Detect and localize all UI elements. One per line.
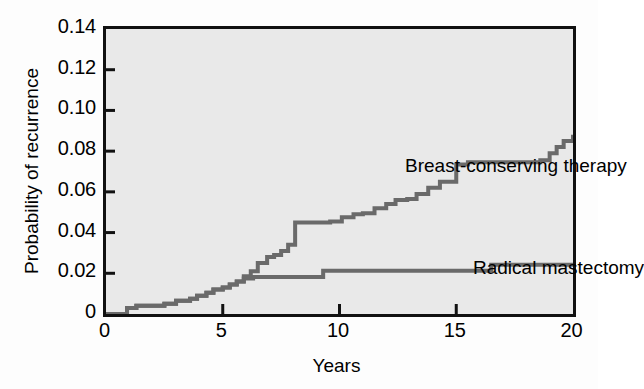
x-tick-label: 5	[216, 320, 227, 340]
x-tick-label: 20	[561, 320, 583, 340]
x-axis-tick-labels: 05101520	[0, 320, 598, 350]
x-tick-label: 0	[99, 320, 110, 340]
x-tick-label: 15	[444, 320, 466, 340]
x-axis-title: Years	[103, 355, 570, 377]
x-tick-label: 10	[327, 320, 349, 340]
series-label-radical-mastectomy: Radical mastectomy	[473, 258, 644, 277]
y-axis-title: Probability of recurrence	[21, 21, 43, 321]
series-label-breast-conserving-therapy: Breast-conserving therapy	[405, 156, 627, 175]
plot-area: Breast-conserving therapy Radical mastec…	[103, 26, 576, 317]
